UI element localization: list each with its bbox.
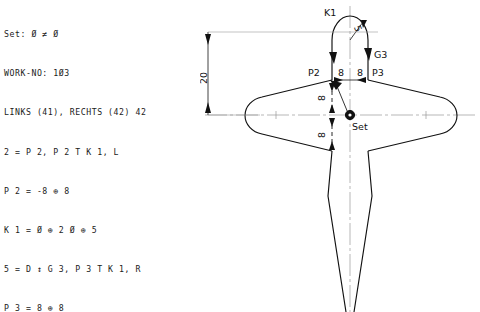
dimension-8-upper-label: 8 xyxy=(316,95,327,101)
technical-drawing: 20 8 8 8 8 xyxy=(200,0,480,312)
dim8v-arrow-upper-bottom xyxy=(329,104,335,113)
dimension-20-label: 20 xyxy=(200,72,209,84)
toolpath-arrows xyxy=(329,48,372,64)
left-lobe xyxy=(245,80,332,151)
bottom-lobe-left xyxy=(328,151,346,312)
dim8v-arrow-lower-top xyxy=(329,118,335,127)
bottom-lobe-right xyxy=(354,151,372,312)
centerlines xyxy=(205,6,476,312)
set-point-label: Set xyxy=(352,121,368,132)
set-point-center-dot xyxy=(348,113,351,116)
dimension-20 xyxy=(208,32,378,115)
set-point-leader xyxy=(336,84,348,113)
label-k1: K1 xyxy=(324,7,336,18)
dim20-arrow-top xyxy=(205,34,211,45)
right-lobe xyxy=(368,80,457,151)
dim20-arrow-bottom xyxy=(205,102,211,113)
dim8v-arrow-lower-bottom xyxy=(329,141,335,150)
label-g3: G3 xyxy=(374,49,387,60)
arrow-head-left xyxy=(329,52,337,64)
dimension-8-left-label: 8 xyxy=(338,67,344,78)
label-p2: P2 xyxy=(308,67,320,78)
label-p3: P3 xyxy=(372,67,384,78)
set-leader-line xyxy=(336,84,348,113)
dimension-8-right-label: 8 xyxy=(357,67,363,78)
part-outline xyxy=(245,16,457,312)
dimension-8-lower-label: 8 xyxy=(316,132,327,138)
